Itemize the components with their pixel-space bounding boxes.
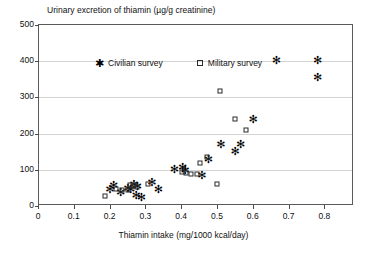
x-axis-tick-mark xyxy=(38,205,39,209)
legend-label-military: Military survey xyxy=(208,58,262,68)
data-point-military xyxy=(103,193,108,198)
data-point-civilian: ✻ xyxy=(137,194,144,201)
y-axis-tick-label: 200 xyxy=(8,128,34,138)
data-point-military xyxy=(135,185,140,190)
data-point-military xyxy=(189,172,194,177)
x-axis-tick-mark xyxy=(324,205,325,209)
x-axis-tick-label: 0.3 xyxy=(130,211,160,221)
x-axis-tick-mark xyxy=(181,205,182,209)
y-axis-tick-label: 400 xyxy=(8,55,34,65)
x-axis-labels: 00.10.20.30.40.50.60.70.8 xyxy=(38,211,353,223)
legend-label-civilian: Civilian survey xyxy=(108,58,163,68)
data-point-military xyxy=(217,88,222,93)
x-axis-tick-label: 0.8 xyxy=(309,211,339,221)
x-axis-tick-mark xyxy=(289,205,290,209)
x-axis-tick-label: 0.7 xyxy=(274,211,304,221)
data-point-military xyxy=(233,117,238,122)
legend-item-civilian: ✱ Civilian survey xyxy=(95,58,163,68)
chart-title: Urinary excretion of thiamin (µg/g creat… xyxy=(47,5,215,15)
data-point-civilian: ✻ xyxy=(154,185,161,192)
data-point-civilian: ✻ xyxy=(248,116,255,123)
asterisk-marker-icon: ✱ xyxy=(95,59,103,68)
data-point-civilian: ✻ xyxy=(313,57,320,64)
data-point-military xyxy=(243,127,248,132)
chart-figure: Urinary excretion of thiamin (µg/g creat… xyxy=(0,0,367,254)
x-axis-tick-label: 0.6 xyxy=(238,211,268,221)
x-axis-tick-label: 0.4 xyxy=(166,211,196,221)
open-square-marker-icon xyxy=(197,60,203,66)
y-axis-tick-mark xyxy=(35,25,39,26)
x-axis-tick-label: 0 xyxy=(23,211,53,221)
x-axis-tick-mark xyxy=(253,205,254,209)
x-axis-tick-label: 0.2 xyxy=(95,211,125,221)
x-axis-ticks xyxy=(38,205,353,210)
x-axis-tick-mark xyxy=(145,205,146,209)
data-point-civilian: ✻ xyxy=(272,57,279,64)
x-axis-title: Thiamin intake (mg/1000 kcal/day) xyxy=(0,230,367,240)
data-point-military xyxy=(120,188,125,193)
x-axis-tick-mark xyxy=(74,205,75,209)
y-axis-tick-label: 300 xyxy=(8,91,34,101)
y-axis-tick-label: 0 xyxy=(8,200,34,210)
x-axis-tick-label: 0.1 xyxy=(59,211,89,221)
x-axis-tick-mark xyxy=(110,205,111,209)
data-point-military xyxy=(195,172,200,177)
data-point-civilian: ✻ xyxy=(170,165,177,172)
plot-area: ✻✻✻✻✻✻✻✻✻✻✻✻✻✻✻✻✻✻✻✻✻✻✻ ✱ Civilian surve… xyxy=(38,24,353,205)
y-axis-tick-label: 100 xyxy=(8,164,34,174)
data-point-military xyxy=(198,161,203,166)
data-point-civilian: ✻ xyxy=(216,140,223,147)
data-point-military xyxy=(125,188,130,193)
legend-item-military: Military survey xyxy=(197,58,262,68)
data-point-military xyxy=(204,155,209,160)
data-point-military xyxy=(146,181,151,186)
gridline xyxy=(39,170,352,171)
gridline xyxy=(39,134,352,135)
gridline xyxy=(39,97,352,98)
data-point-civilian: ✻ xyxy=(313,74,320,81)
chart-legend: ✱ Civilian survey Military survey xyxy=(77,55,262,71)
data-point-civilian: ✻ xyxy=(236,141,243,148)
data-point-military xyxy=(113,187,118,192)
x-axis-tick-mark xyxy=(217,205,218,209)
y-axis-labels: 0100200300400500 xyxy=(4,24,34,205)
data-point-military xyxy=(215,182,220,187)
x-axis-tick-label: 0.5 xyxy=(202,211,232,221)
y-axis-tick-label: 500 xyxy=(8,19,34,29)
